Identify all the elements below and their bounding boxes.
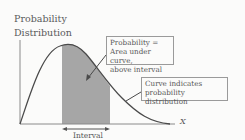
x-axis-label: X	[180, 117, 186, 126]
area-callout-line1: Probability =	[110, 38, 170, 47]
curve-callout-line1: Curve indicates	[145, 79, 224, 88]
shaded-probability-area	[62, 44, 110, 124]
interval-arrowhead-left	[62, 127, 67, 131]
area-probability-callout: Probability = Area under curve, above in…	[106, 36, 174, 65]
interval-label: Interval	[73, 131, 103, 140]
curve-callout: Curve indicates probability distribution	[141, 77, 228, 101]
area-callout-line3: above interval	[110, 65, 170, 74]
interval-arrowhead-right	[105, 127, 110, 131]
curve-callout-pointer	[126, 92, 141, 101]
curve-callout-line2: probability distribution	[145, 88, 224, 106]
area-callout-line2: Area under curve,	[110, 47, 170, 65]
